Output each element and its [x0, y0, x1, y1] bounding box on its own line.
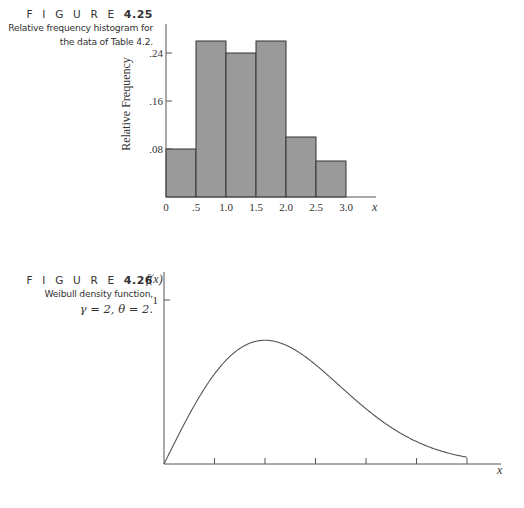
x-tick-label: 2.0: [279, 201, 293, 213]
x-tick-labels: 0.51.01.52.02.53.0: [163, 201, 353, 213]
x-tick-label: 1.0: [219, 201, 233, 213]
y-axis-label: f(x): [146, 272, 163, 286]
x-axis-label: x: [371, 200, 378, 214]
x-tick-label: 1.5: [249, 201, 263, 213]
y-axis-label: Relative Frequency: [119, 57, 133, 151]
y-ticks: 1: [153, 294, 171, 306]
y-tick-label: .16: [149, 95, 163, 107]
y-tick-label: .24: [149, 47, 163, 59]
x-tick-label: 2.5: [309, 201, 323, 213]
y-ticks: .08.16.24: [149, 47, 172, 155]
histogram-bar: [256, 41, 286, 197]
histogram-bar: [196, 41, 226, 197]
histogram-bars: [166, 41, 346, 197]
x-tick-label: 0: [163, 201, 169, 213]
y-tick-label: .08: [149, 143, 163, 155]
weibull-density-chart: 1 f(x) x: [146, 272, 503, 477]
x-axis-label: x: [496, 463, 503, 477]
histogram-bar: [226, 53, 256, 197]
x-ticks: [215, 458, 468, 464]
density-curve: [164, 340, 467, 464]
y-tick-label: 1: [153, 294, 159, 306]
charts-canvas: .08.16.24 0.51.01.52.02.53.0 x Relative …: [0, 0, 524, 508]
histogram-bar: [286, 137, 316, 197]
x-tick-label: 3.0: [339, 201, 353, 213]
histogram-bar: [166, 149, 196, 197]
histogram-chart: .08.16.24 0.51.01.52.02.53.0 x Relative …: [119, 24, 378, 214]
histogram-bar: [316, 161, 346, 197]
x-tick-label: .5: [192, 201, 201, 213]
